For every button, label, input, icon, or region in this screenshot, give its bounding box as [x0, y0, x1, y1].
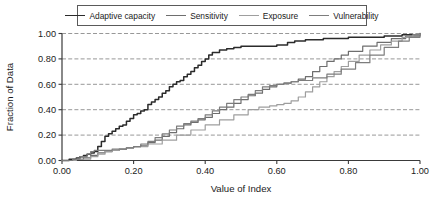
x-tick-label: 0.20	[125, 166, 143, 176]
y-tick-label: 0.00	[38, 156, 56, 166]
y-tick-label: 0.60	[38, 80, 56, 90]
y-tick-label: 0.20	[38, 130, 56, 140]
x-tick-label: 0.60	[268, 166, 286, 176]
x-tick-label: 0.40	[196, 166, 214, 176]
y-tick-label: 0.40	[38, 105, 56, 115]
x-axis-title: Value of Index	[211, 183, 272, 194]
series-line	[62, 34, 420, 161]
data-series	[62, 34, 420, 161]
y-tick-label: 0.80	[38, 54, 56, 64]
x-tick-label: 0.00	[53, 166, 71, 176]
axis-ticks	[59, 34, 421, 165]
cdf-chart-figure: Adaptive capacitySensitivityExposureVuln…	[0, 0, 437, 198]
y-axis-title: Fraction of Data	[4, 62, 15, 131]
chart-plot-area: 0.000.200.400.600.801.000.000.200.400.60…	[0, 0, 437, 198]
x-tick-label: 1.00	[411, 166, 429, 176]
gridlines	[62, 34, 420, 136]
y-tick-label: 1.00	[38, 29, 56, 39]
x-tick-label: 0.80	[339, 166, 357, 176]
